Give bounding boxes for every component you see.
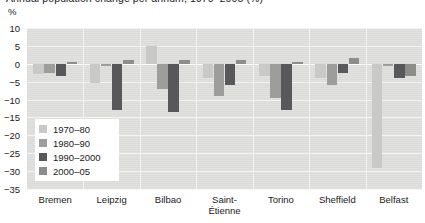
bar (33, 64, 44, 75)
bar (315, 64, 326, 78)
bar (44, 64, 55, 73)
bar (405, 64, 416, 77)
chart-legend: 1970–801980–901990–20002000–05 (35, 119, 119, 181)
bar (101, 64, 112, 66)
chart-title: Annual population change per annum, 1970… (6, 0, 263, 4)
bar (179, 60, 190, 64)
legend-swatch-icon (39, 153, 47, 161)
bar (338, 64, 349, 73)
legend-item: 1980–90 (39, 136, 111, 150)
bar (67, 62, 78, 64)
bar (225, 64, 236, 85)
legend-item: 2000–05 (39, 164, 111, 178)
bar (90, 64, 101, 84)
y-axis-unit-label: % (8, 6, 16, 17)
bar-group (309, 28, 365, 189)
x-axis-label: Leipzig (83, 194, 139, 205)
y-axis-tick-label: −35 (0, 184, 20, 195)
bar (112, 64, 123, 111)
x-axis-label: Belfast (366, 194, 422, 205)
gridline (27, 189, 422, 190)
bar (383, 64, 394, 66)
y-axis-tick-label: 10 (0, 23, 20, 34)
bar-group (366, 28, 422, 189)
bar (157, 64, 168, 89)
legend-swatch-icon (39, 167, 47, 175)
y-axis-tick-label: 0 (0, 58, 20, 69)
x-axis-label: Saint-​Étienne (196, 194, 252, 216)
legend-swatch-icon (39, 139, 47, 147)
y-axis-tick-label: −5 (0, 76, 20, 87)
x-axis-label: Bilbao (140, 194, 196, 205)
chart-figure: Annual population change per annum, 1970… (0, 0, 425, 223)
bar (372, 64, 383, 168)
bar (281, 64, 292, 111)
x-axis-label: Sheffield (309, 194, 365, 205)
bar (292, 62, 303, 64)
bar (214, 64, 225, 96)
bar (349, 58, 360, 63)
legend-label: 1980–90 (53, 138, 90, 149)
bar (56, 64, 67, 77)
legend-swatch-icon (39, 125, 47, 133)
y-axis-tick-label: −10 (0, 94, 20, 105)
legend-item: 1970–80 (39, 122, 111, 136)
bar (168, 64, 179, 112)
y-axis-tick-label: −20 (0, 130, 20, 141)
y-axis-tick-label: 5 (0, 40, 20, 51)
bar (203, 64, 214, 78)
bar (236, 60, 247, 64)
x-axis-label: Bremen (27, 194, 83, 205)
bar-group (196, 28, 252, 189)
x-axis-label: Torino (253, 194, 309, 205)
legend-label: 2000–05 (53, 166, 90, 177)
y-axis-tick-label: −25 (0, 148, 20, 159)
bar (327, 64, 338, 85)
y-axis-tick-label: −15 (0, 112, 20, 123)
bar (270, 64, 281, 98)
bar (146, 46, 157, 64)
bar-group (140, 28, 196, 189)
bar (123, 60, 134, 64)
bar (259, 64, 270, 77)
y-axis-tick-label: −30 (0, 166, 20, 177)
legend-label: 1970–80 (53, 124, 90, 135)
legend-label: 1990–2000 (53, 152, 101, 163)
bar-group (253, 28, 309, 189)
legend-item: 1990–2000 (39, 150, 111, 164)
bar (394, 64, 405, 78)
